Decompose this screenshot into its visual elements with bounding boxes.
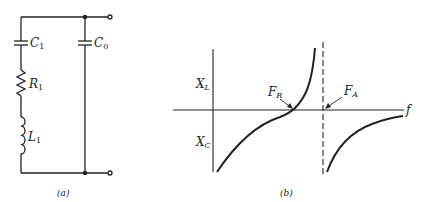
caption-a: (a) [57, 188, 70, 198]
reactance-curve-right [327, 116, 403, 172]
label-fa: FA [343, 84, 358, 99]
fr-arrowhead [287, 103, 293, 109]
label-c0: C0 [94, 36, 108, 51]
capacitor-c0-symbol [78, 41, 92, 45]
inductor-l1-symbol [21, 117, 25, 154]
fa-arrowhead [325, 103, 331, 109]
label-l1: L1 [27, 130, 41, 145]
caption-b: (b) [280, 188, 293, 198]
label-xl: XL [195, 77, 210, 92]
label-c1: C1 [30, 36, 44, 51]
label-r1: R1 [28, 77, 43, 92]
figure-canvas: C1 R1 L1 C0 (a) XL XC FR FA f (b) [0, 0, 425, 202]
label-f: f [405, 103, 413, 117]
reactance-graph [173, 42, 404, 175]
capacitor-c1-symbol [14, 41, 28, 45]
label-xc: XC [195, 135, 211, 150]
resistor-r1-symbol [17, 70, 25, 96]
top-terminal [108, 15, 112, 19]
bottom-terminal [108, 171, 112, 175]
label-fr: FR [267, 85, 282, 100]
